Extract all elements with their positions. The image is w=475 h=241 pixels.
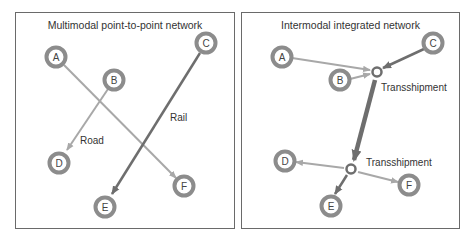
svg-text:D: D <box>55 158 62 169</box>
left-node-a: A <box>47 48 66 67</box>
svg-text:A: A <box>279 52 286 63</box>
left-node-f: F <box>175 177 194 196</box>
svg-text:F: F <box>406 180 412 191</box>
svg-text:A: A <box>53 52 60 63</box>
svg-text:B: B <box>337 75 344 86</box>
left-node-e: E <box>96 198 115 217</box>
transshipment-hub-1 <box>373 68 382 77</box>
edge-rail-c-to-e <box>112 53 200 194</box>
svg-text:B: B <box>111 75 118 86</box>
right-node-f: F <box>400 176 419 195</box>
svg-text:E: E <box>102 202 109 213</box>
edge-b-to-hub1 <box>350 74 370 79</box>
rail-label: Rail <box>170 112 187 123</box>
right-edges <box>292 49 424 194</box>
edge-c-to-hub1 <box>383 49 424 68</box>
right-node-e: E <box>322 197 341 216</box>
svg-text:C: C <box>429 38 436 49</box>
left-node-d: D <box>50 154 69 173</box>
transshipment-label-1: Transshipment <box>381 82 447 93</box>
road-label: Road <box>80 135 104 146</box>
edge-hub2-to-e <box>335 175 347 194</box>
svg-text:C: C <box>202 38 209 49</box>
edge-hub2-to-d <box>296 162 344 168</box>
network-diagrams: Road Rail A B C D E F Transshipment <box>0 0 475 241</box>
right-node-d: D <box>276 152 295 171</box>
edge-hub2-to-f <box>358 172 398 182</box>
transshipment-label-2: Transshipment <box>366 157 432 168</box>
right-node-b: B <box>331 71 350 90</box>
right-node-a: A <box>273 48 292 67</box>
svg-text:E: E <box>328 201 335 212</box>
left-edges <box>64 53 200 194</box>
transshipment-hub-2 <box>347 165 356 174</box>
svg-text:D: D <box>281 156 288 167</box>
edge-trunk-hub1-to-hub2 <box>354 80 375 160</box>
right-node-c: C <box>424 34 443 53</box>
left-node-b: B <box>105 71 124 90</box>
edge-a-to-hub1 <box>292 58 370 70</box>
left-node-c: C <box>197 34 216 53</box>
svg-text:F: F <box>181 181 187 192</box>
